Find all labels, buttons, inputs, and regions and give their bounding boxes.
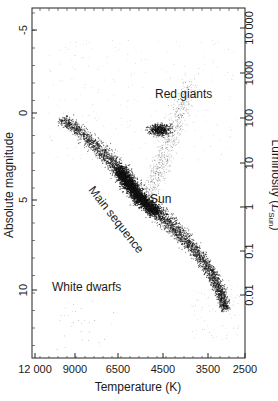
hr-diagram: 12 00090006500450035002500 -50510 10 000…	[0, 0, 278, 401]
y-right-axis-label: Luminosity (LSun)	[267, 140, 278, 231]
y-left-axis-label: Absolute magnitude	[2, 132, 16, 238]
x-tick-label: 12 000	[18, 363, 52, 375]
y-left-axis-ticks: -50510	[17, 13, 37, 346]
y-right-tick-label: 10 000	[243, 11, 255, 45]
plot-frame	[32, 8, 245, 358]
y-left-tick-label: 0	[17, 110, 29, 116]
y-right-tick-label: 0.01	[243, 284, 255, 305]
annotation-red-giants: Red giants	[155, 87, 212, 101]
y-left-tick-label: -5	[17, 25, 29, 35]
y-right-tick-label: 1000	[243, 61, 255, 85]
annotation-white-dwarfs: White dwarfs	[52, 280, 121, 294]
sun-marker	[128, 198, 132, 202]
x-axis-label: Temperature (K)	[95, 380, 182, 394]
y-left-tick-label: 10	[17, 284, 29, 296]
annotation-sun: Sun	[150, 192, 171, 206]
x-tick-label: 6500	[106, 363, 130, 375]
y-right-tick-label: 10	[243, 157, 255, 169]
x-tick-label: 3500	[196, 363, 220, 375]
x-tick-label: 4500	[151, 363, 175, 375]
y-left-tick-label: 5	[17, 197, 29, 203]
y-right-tick-label: 0.1	[243, 243, 255, 258]
x-tick-label: 2500	[233, 363, 257, 375]
y-right-tick-label: 1	[243, 204, 255, 210]
x-tick-label: 9000	[63, 363, 87, 375]
y-right-tick-label: 100	[243, 109, 255, 127]
y-right-axis-ticks: 10 00010001001010.10.01	[240, 11, 255, 306]
